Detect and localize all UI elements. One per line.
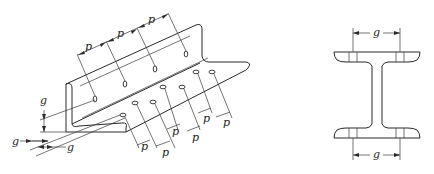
bottom-pitch-dimension-lines xyxy=(137,108,230,146)
pitch-label: p xyxy=(85,40,92,53)
gauge-label: g xyxy=(373,148,380,161)
gauge-label: g xyxy=(12,135,19,148)
pitch-label: p xyxy=(192,131,199,144)
bolt-hole xyxy=(160,85,166,89)
bolt-hole xyxy=(153,66,157,72)
i-beam-section xyxy=(334,52,420,138)
bolt-hole xyxy=(93,96,97,102)
bolt-hole xyxy=(193,70,199,74)
bolt-hole xyxy=(209,70,215,74)
bolt-hole xyxy=(184,51,188,57)
pitch-label: p xyxy=(117,27,124,40)
pitch-label: p xyxy=(223,116,230,129)
bolt-hole xyxy=(123,81,127,87)
pitch-label: p xyxy=(172,125,179,138)
gauge-label: g xyxy=(373,26,380,39)
bolt-hole xyxy=(179,85,185,89)
structural-bolt-layout-diagram: p p p p p p p p p g xyxy=(0,0,434,174)
pitch-label: p xyxy=(203,112,210,125)
gauge-label: g xyxy=(67,141,74,154)
pitch-label: p xyxy=(162,146,169,159)
bolt-hole xyxy=(150,100,156,104)
gauge-label: g xyxy=(40,94,47,107)
pitch-label: p xyxy=(141,140,148,153)
pitch-label: p xyxy=(148,13,155,26)
bolt-hole xyxy=(132,101,138,105)
bolt-hole xyxy=(120,113,126,117)
